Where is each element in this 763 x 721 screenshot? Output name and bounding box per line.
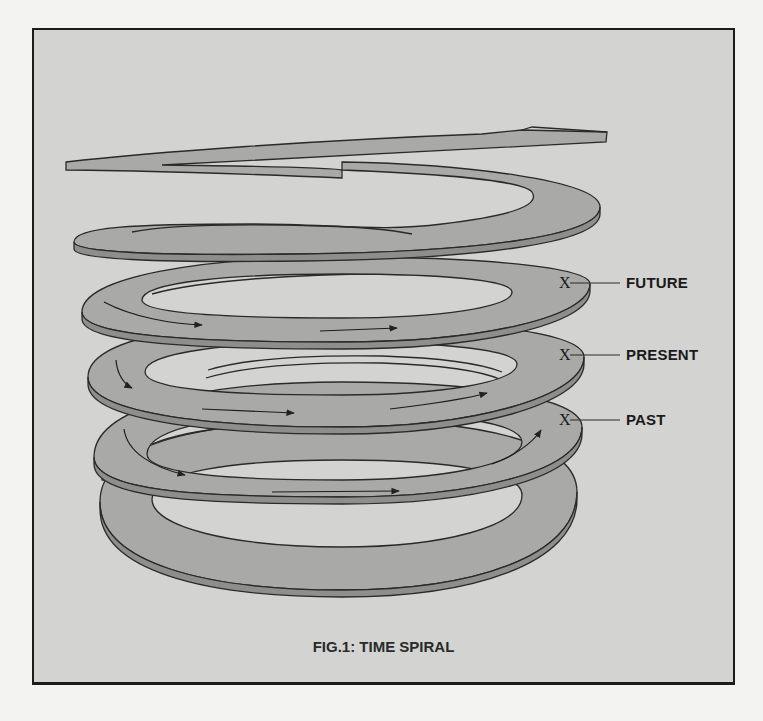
past-label: PAST: [626, 411, 666, 428]
figure-caption: FIG.1: TIME SPIRAL: [34, 638, 733, 655]
future-label: FUTURE: [626, 274, 688, 291]
figure-frame: X X X FUTURE PRESENT PAST FIG.1: TIME SP…: [32, 28, 735, 685]
present-label: PRESENT: [626, 346, 698, 363]
present-marker: X: [559, 346, 571, 364]
future-marker: X: [559, 274, 571, 292]
past-marker: X: [559, 411, 571, 429]
